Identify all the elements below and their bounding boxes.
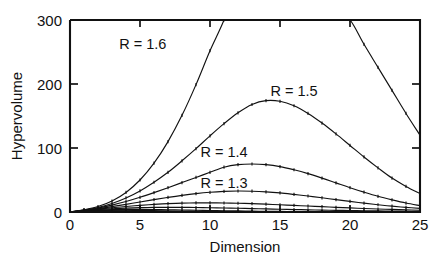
x-tick-label: 0 xyxy=(66,216,74,233)
x-tick-label: 10 xyxy=(202,216,219,233)
x-tick-label: 25 xyxy=(412,216,429,233)
x-tick-label: 20 xyxy=(342,216,359,233)
series-annotation: R = 1.6 xyxy=(119,36,166,52)
series-annotation: R = 1.5 xyxy=(270,83,317,99)
y-tick-label: 100 xyxy=(37,140,62,157)
chart-figure: 05101520250100200300 R = 1.6R = 1.5R = 1… xyxy=(0,0,440,276)
series-annotation: R = 1.4 xyxy=(200,144,247,160)
y-tick-label: 200 xyxy=(37,76,62,93)
y-tick-label: 300 xyxy=(37,12,62,29)
y-axis-title: Hypervolume xyxy=(8,72,25,160)
x-tick-label: 5 xyxy=(136,216,144,233)
y-tick-label: 0 xyxy=(54,204,62,221)
x-axis-title: Dimension xyxy=(210,238,281,255)
series-annotations-group: R = 1.6R = 1.5R = 1.4R = 1.3 xyxy=(119,36,317,191)
hypervolume-vs-dimension-chart: 05101520250100200300 R = 1.6R = 1.5R = 1… xyxy=(0,0,440,276)
series-annotation: R = 1.3 xyxy=(200,175,247,191)
axis-tick-labels-group: 05101520250100200300 xyxy=(37,12,428,234)
x-tick-label: 15 xyxy=(272,216,289,233)
